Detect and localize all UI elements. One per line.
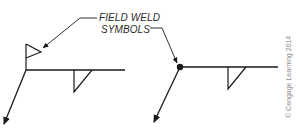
- leader-right: [150, 28, 177, 63]
- callout-label-line1: FIELD WELD: [99, 12, 160, 24]
- fillet-weld-icon: [228, 67, 246, 89]
- callout-label-line2: SYMBOLS: [101, 24, 150, 36]
- leader-left: [43, 18, 97, 48]
- field-weld-flag-icon: [26, 44, 41, 58]
- copyright-notice: © Cengage Learning 2014: [285, 36, 292, 118]
- fillet-weld-icon: [74, 70, 92, 92]
- arrow-line: [4, 70, 26, 124]
- left-weld-symbol: [4, 44, 125, 124]
- arrow-line: [154, 67, 180, 122]
- right-weld-symbol: [154, 64, 278, 122]
